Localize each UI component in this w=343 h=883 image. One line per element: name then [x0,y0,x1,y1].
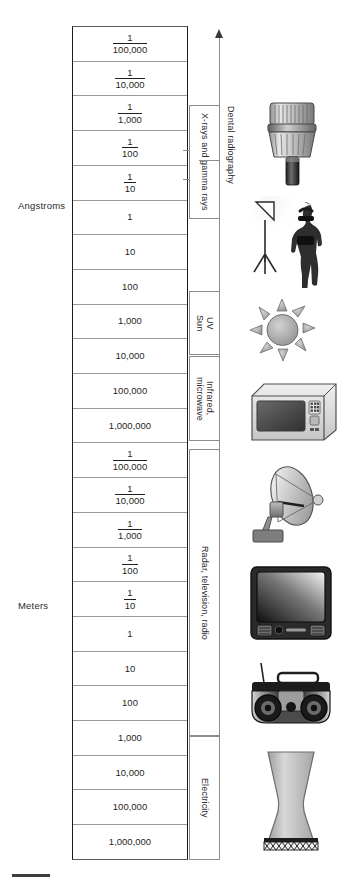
fraction-denominator: 1,000 [118,530,142,541]
fraction-denominator: 100,000 [113,461,147,472]
scale-row: 100,000 [73,374,187,409]
scale-value-fraction: 11,000 [118,519,142,541]
scale-row: 10,000 [73,339,187,374]
microwave-oven-illustration [248,378,340,448]
fraction-denominator: 1,000 [118,114,142,125]
studio-light-and-model-illustration [248,196,334,288]
band-infrared-microwave: Infrared, microwave [189,356,220,441]
scale-row: 1,000,000 [73,825,187,859]
band-label: Electricity [199,778,210,818]
xray-band-bracket [183,150,190,180]
scale-value: 10 [125,664,136,674]
scale-value: 1 [127,629,132,639]
scale-row: 10 [73,652,187,687]
scale-value-fraction: 1100 [122,553,138,575]
scale-value-fraction: 110,000 [115,484,144,506]
satellite-dish-illustration [248,462,334,550]
scale-row: 1 [73,617,187,652]
scale-value: 1,000,000 [109,421,151,431]
band-label: X-rays and gamma rays [199,113,210,211]
scale-value: 100,000 [113,386,147,396]
scale-row: 110 [73,582,187,617]
power-plant-cooling-tower-illustration [248,750,334,854]
scale-row: 1100 [73,548,187,583]
scale-value: 1,000,000 [109,837,151,847]
fraction-numerator: 1 [115,68,144,80]
band-label: Infrared, microwave [194,377,215,421]
boombox-radio-illustration [248,661,334,733]
fraction-numerator: 1 [124,172,135,184]
scale-value-fraction: 110 [124,172,135,194]
scale-row: 11,000 [73,513,187,548]
scale-row: 110 [73,166,187,201]
spectrum-axis-arrow-icon [215,29,223,38]
scale-value-fraction: 110,000 [115,68,144,90]
scale-value-fraction: 1100 [122,137,138,159]
scale-value: 100 [122,698,138,708]
band-electricity: Electricity [189,736,220,860]
application-label-dental-radiography: Dental radiography [226,106,236,184]
fraction-numerator: 1 [124,588,135,600]
scale-value: 1,000 [118,316,142,326]
band-label: Radar, television, radio [199,546,210,640]
scale-row: 1100 [73,131,187,166]
television-illustration [248,564,334,642]
footer-rule [12,874,50,877]
fraction-denominator: 100 [122,148,138,159]
scale-value: 10 [125,247,136,257]
scale-row: 10 [73,235,187,270]
fraction-numerator: 1 [118,102,142,114]
scale-value-fraction: 1100,000 [113,449,147,471]
scale-value: 1,000 [118,733,142,743]
fraction-denominator: 100,000 [113,44,147,55]
dental-x-ray-tubehead-illustration [248,95,334,195]
scale-value: 100 [122,282,138,292]
band-radar-tv-radio: Radar, television, radio [189,449,220,736]
scale-value-fraction: 1100,000 [113,33,147,55]
scale-row: 1,000,000 [73,409,187,444]
spectrum-axis-line [219,36,220,860]
unit-label-angstroms: Angstroms [18,200,65,211]
band-label: UV Sun [194,315,215,331]
scale-value: 1 [127,212,132,222]
fraction-numerator: 1 [122,553,138,565]
scale-row: 1 [73,201,187,236]
scale-value: 100,000 [113,802,147,812]
fraction-numerator: 1 [113,33,147,45]
scale-row: 100,000 [73,790,187,825]
fraction-numerator: 1 [122,137,138,149]
scale-row: 1,000 [73,305,187,340]
scale-row: 10,000 [73,756,187,791]
sun-illustration [248,298,318,362]
scale-value-fraction: 11,000 [118,102,142,124]
fraction-denominator: 10,000 [115,495,144,506]
dental-radiography-tick [199,160,219,161]
scale-value: 10,000 [115,351,144,361]
scale-row: 1,000 [73,721,187,756]
scale-row: 100 [73,270,187,305]
fraction-denominator: 10 [124,183,135,194]
spectrum-diagram: Angstroms Meters 1100,000110,00011,00011… [0,0,343,883]
scale-row: 1100,000 [73,443,187,478]
scale-value: 10,000 [115,768,144,778]
scale-row: 11,000 [73,96,187,131]
scale-row: 1100,000 [73,27,187,62]
fraction-numerator: 1 [113,449,147,461]
fraction-denominator: 100 [122,565,138,576]
scale-row: 110,000 [73,62,187,97]
fraction-numerator: 1 [115,484,144,496]
fraction-numerator: 1 [118,519,142,531]
band-xray-gamma: X-rays and gamma rays [189,105,220,219]
scale-value-fraction: 110 [124,588,135,610]
unit-label-meters: Meters [18,600,48,611]
band-uv-sun: UV Sun [189,291,220,355]
scale-row: 100 [73,686,187,721]
scale-row: 110,000 [73,478,187,513]
fraction-denominator: 10,000 [115,79,144,90]
scale-table: 1100,000110,00011,00011001101101001,0001… [72,26,188,860]
fraction-denominator: 10 [124,600,135,611]
